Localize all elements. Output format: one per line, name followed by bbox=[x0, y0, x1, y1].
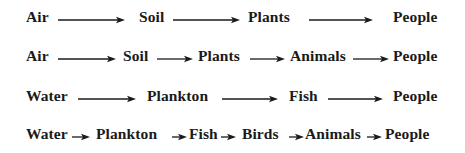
chain-node-water: Water bbox=[26, 126, 68, 142]
arrow-right-icon bbox=[157, 55, 193, 63]
chain-node-soil: Soil bbox=[123, 48, 148, 64]
chain-node-water: Water bbox=[26, 88, 68, 104]
arrow-right-icon bbox=[58, 16, 125, 24]
chain-node-animals: Animals bbox=[305, 126, 361, 142]
chain-node-people: People bbox=[385, 126, 430, 142]
chain-node-air: Air bbox=[26, 48, 49, 64]
arrow-right-icon bbox=[289, 133, 304, 141]
chain-node-soil: Soil bbox=[139, 9, 164, 25]
chain-node-animals: Animals bbox=[290, 48, 346, 64]
arrow-right-icon bbox=[221, 133, 236, 141]
arrow-right-icon bbox=[309, 16, 373, 24]
arrow-right-icon bbox=[58, 55, 116, 63]
chain-node-birds: Birds bbox=[242, 126, 279, 142]
chain-node-people: People bbox=[393, 48, 438, 64]
chain-node-people: People bbox=[393, 88, 438, 104]
food-chain-1: AirSoilPlantsPeople bbox=[0, 9, 465, 39]
chain-node-fish: Fish bbox=[189, 126, 218, 142]
arrow-right-icon bbox=[173, 16, 240, 24]
arrow-right-icon bbox=[250, 55, 285, 63]
chain-node-plankton: Plankton bbox=[147, 88, 208, 104]
arrow-right-icon bbox=[78, 95, 136, 103]
chain-node-plants: Plants bbox=[198, 48, 240, 64]
food-chain-4: WaterPlanktonFishBirdsAnimalsPeople bbox=[0, 126, 465, 153]
chain-node-air: Air bbox=[26, 9, 49, 25]
chain-node-people: People bbox=[393, 9, 438, 25]
chain-node-plankton: Plankton bbox=[96, 126, 157, 142]
chain-node-fish: Fish bbox=[289, 88, 318, 104]
food-chain-diagram: AirSoilPlantsPeople AirSoilPlantsAnimals… bbox=[0, 0, 465, 153]
chain-node-plants: Plants bbox=[248, 9, 290, 25]
arrow-right-icon bbox=[172, 133, 187, 141]
food-chain-2: AirSoilPlantsAnimalsPeople bbox=[0, 48, 465, 78]
arrow-right-icon bbox=[367, 133, 382, 141]
arrow-right-icon bbox=[328, 95, 383, 103]
arrow-right-icon bbox=[353, 55, 389, 63]
arrow-right-icon bbox=[222, 95, 278, 103]
food-chain-3: WaterPlanktonFishPeople bbox=[0, 88, 465, 118]
arrow-right-icon bbox=[72, 133, 90, 141]
